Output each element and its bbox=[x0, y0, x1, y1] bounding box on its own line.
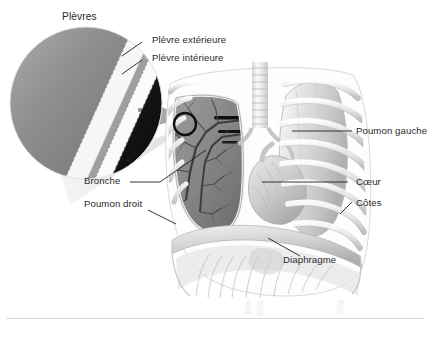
label-cotes: Côtes bbox=[356, 198, 382, 208]
figure-caption bbox=[6, 327, 306, 336]
label-poumon-droit: Poumon droit bbox=[84, 199, 142, 209]
label-plevre-exterieure: Plèvre extérieure bbox=[152, 35, 226, 45]
anatomy-figure: Plèvres Plèvre extérieure Plèvre intérie… bbox=[0, 0, 436, 338]
label-plevres: Plèvres bbox=[62, 12, 97, 22]
label-diaphragme: Diaphragme bbox=[283, 255, 336, 265]
label-coeur: Cœur bbox=[356, 177, 381, 187]
anatomy-illustration bbox=[0, 0, 436, 338]
lower-crop-shapes bbox=[244, 300, 344, 316]
label-plevre-interieure: Plèvre intérieure bbox=[152, 53, 224, 63]
label-poumon-gauche: Poumon gauche bbox=[356, 126, 427, 136]
caption-divider bbox=[6, 318, 424, 319]
label-bronche: Bronche bbox=[84, 176, 120, 186]
